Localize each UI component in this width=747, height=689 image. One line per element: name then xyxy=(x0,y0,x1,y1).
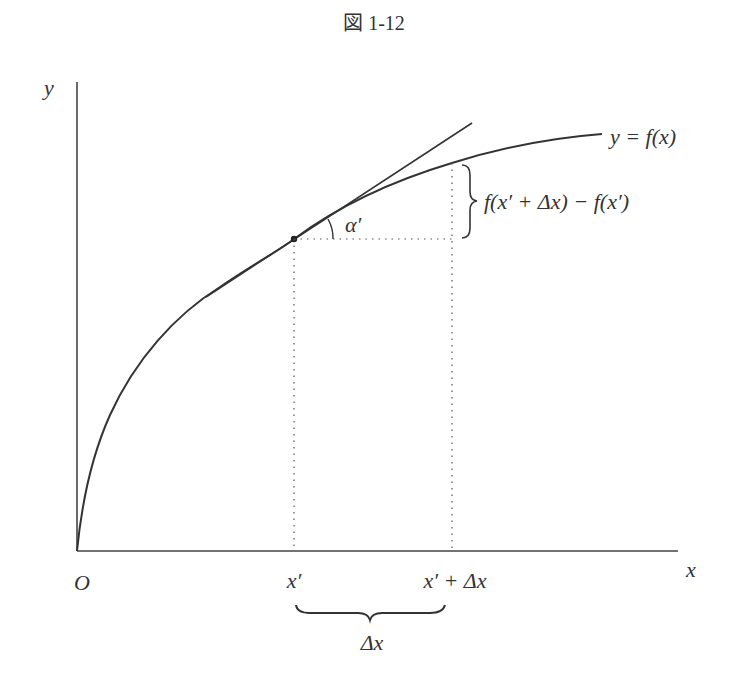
x-axis-label: x xyxy=(685,557,696,582)
difference-brace xyxy=(462,165,477,238)
curve-label: y = f(x) xyxy=(608,124,676,149)
delta-x-brace xyxy=(296,605,445,620)
angle-arc xyxy=(328,219,333,239)
angle-label: α′ xyxy=(345,212,363,237)
tangent-line xyxy=(206,123,472,297)
diagram-canvas: 図 1-12 y x O α′ y = f(x) f(x′ + Δx) − f(… xyxy=(0,0,747,689)
diagram-figure: 図 1-12 y x O α′ y = f(x) f(x′ + Δx) − f(… xyxy=(0,0,747,689)
delta-x-label: Δx xyxy=(360,630,384,655)
difference-label: f(x′ + Δx) − f(x′) xyxy=(484,189,629,214)
origin-label: O xyxy=(74,570,90,595)
x-prime-label: x′ xyxy=(286,568,303,593)
x-prime-plus-dx-label: x′ + Δx xyxy=(422,568,486,593)
y-axis-label: y xyxy=(42,75,54,100)
figure-title: 図 1-12 xyxy=(343,12,405,34)
